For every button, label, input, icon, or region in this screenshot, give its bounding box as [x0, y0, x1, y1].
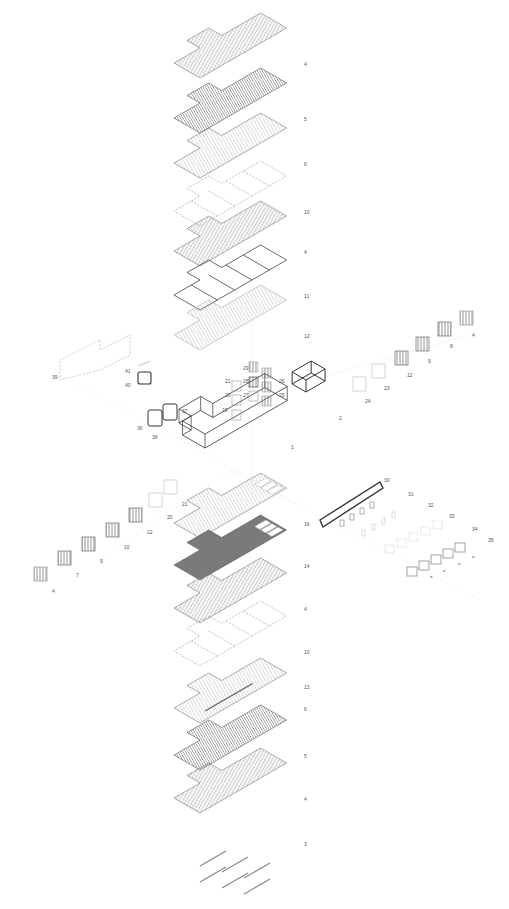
part-label: 31: [408, 492, 414, 497]
part-label: 11: [304, 294, 309, 299]
window-31: [340, 520, 344, 526]
part-label: 9: [100, 559, 103, 564]
part-label: 21: [182, 502, 188, 507]
part-label: 27: [243, 393, 249, 398]
left-cluster: [60, 335, 177, 426]
facade-panel: [149, 493, 162, 507]
facade-panel: [129, 508, 142, 522]
panel-element: [262, 382, 271, 392]
facade-panel: [353, 377, 366, 391]
part-label: 16: [304, 522, 310, 527]
frame-33: [409, 533, 418, 541]
box-36: [148, 410, 162, 426]
part-label: 35: [488, 538, 494, 543]
part-label: 32: [428, 503, 434, 508]
part-label: 10: [304, 210, 310, 215]
plate-division: [226, 621, 252, 636]
floor-plate-4: [174, 201, 287, 266]
fixture-35: ø: [430, 574, 433, 579]
beam: [222, 857, 248, 872]
part-label: 3: [304, 842, 307, 847]
right-component-stack: øøøø: [320, 482, 475, 579]
part-label: 29: [243, 366, 249, 371]
panel-element: [262, 368, 271, 378]
part-label: 8: [450, 344, 453, 349]
exploded-axonometric-diagram: øøøø 45610411121614410136543489122324212…: [0, 0, 509, 909]
frame-33: [433, 521, 442, 529]
window-31: [350, 514, 354, 520]
window-32: [392, 512, 395, 518]
plate-division: [191, 285, 217, 300]
part-label: 5: [304, 117, 307, 122]
part-label: 39: [52, 375, 58, 380]
part-label: 1: [291, 445, 294, 450]
part-label: 28: [243, 379, 249, 384]
part-label: 2: [339, 416, 342, 421]
frame-33: [421, 527, 430, 535]
part-label: 30: [384, 478, 390, 483]
part-label: 33: [449, 514, 455, 519]
facade-panel: [58, 551, 71, 565]
plate-shape: [174, 13, 287, 78]
beam: [244, 863, 270, 878]
plate-shape: [174, 201, 287, 266]
box-bottom: [292, 373, 325, 392]
beam: [244, 879, 270, 894]
part-label: 34: [472, 527, 478, 532]
part-label: 14: [304, 564, 310, 569]
part-label: 12: [304, 334, 310, 339]
panel-element: [262, 396, 271, 406]
plate-shape: [174, 285, 287, 350]
part-label: 40: [125, 383, 131, 388]
part-label: 23: [384, 386, 390, 391]
floor-plate-12: [174, 285, 287, 350]
fixture-35: ø: [443, 568, 446, 573]
box-2: [292, 361, 325, 392]
frame-34: [431, 555, 441, 564]
part-label: 10: [304, 650, 310, 655]
part-label: 4: [304, 607, 307, 612]
plate-division: [243, 255, 269, 270]
window-32: [362, 530, 365, 536]
facade-panel: [395, 351, 408, 365]
plate-division: [243, 171, 269, 186]
facade-panel: [82, 537, 95, 551]
box-top: [292, 361, 325, 380]
part-label: 4: [304, 797, 307, 802]
beam: [222, 873, 248, 888]
plate-division: [209, 275, 235, 290]
floor-plates: [174, 13, 287, 894]
part-label: 22: [147, 530, 153, 535]
part-label: 26: [279, 379, 285, 384]
part-label: 5: [304, 754, 307, 759]
plate-division: [191, 641, 217, 656]
part-label: 4: [304, 62, 307, 67]
dashed-guide-lines: [60, 320, 480, 600]
part-label: 41: [125, 369, 131, 374]
element-41: [138, 361, 150, 366]
facade-panel: [460, 311, 473, 325]
plate-division: [191, 201, 217, 216]
part-label: 25: [279, 393, 285, 398]
facade-panel: [438, 322, 451, 336]
plate-division: [226, 265, 252, 280]
fixture-35: ø: [458, 561, 461, 566]
facade-panel: [416, 337, 429, 351]
part-label: 6: [304, 162, 307, 167]
part-label: 20: [225, 393, 231, 398]
facade-panel: [106, 523, 119, 537]
part-label: 9: [428, 359, 431, 364]
window-32: [372, 524, 375, 530]
window-31: [370, 502, 374, 508]
frame-34: [419, 561, 429, 570]
part-label: 10: [124, 545, 130, 550]
plate-division: [243, 611, 269, 626]
plate-division: [209, 631, 235, 646]
plate-division: [226, 181, 252, 196]
facade-panel: [164, 480, 177, 494]
panel-element: [249, 362, 258, 372]
dashed-volume-39: [60, 335, 130, 380]
part-label: 13: [304, 685, 310, 690]
box-40: [138, 372, 151, 384]
diagram-drawing: øøøø: [0, 0, 509, 909]
